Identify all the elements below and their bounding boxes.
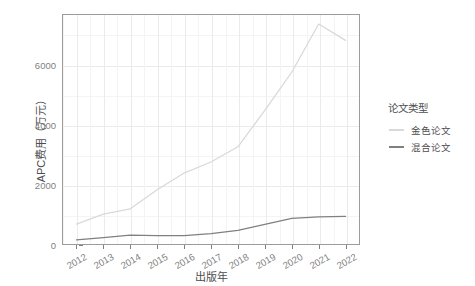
legend-title: 论文类型 [388,100,473,115]
y-tick-label: 6000 [22,59,56,70]
x-tick-mark [292,245,293,249]
series-line-2 [76,216,345,240]
series-line-1 [76,24,345,224]
legend-item-label: 金色论文 [411,123,451,137]
series-layer [63,15,359,244]
x-tick-mark [346,245,347,249]
x-tick-mark [76,245,77,249]
legend-line-key-icon [388,123,405,137]
x-tick-mark [184,245,185,249]
x-tick-mark [103,245,104,249]
x-tick-mark [265,245,266,249]
x-tick-mark [130,245,131,249]
y-tick-mark [79,245,83,246]
legend-line-key-icon [388,140,405,154]
legend-item-1[interactable]: 金色论文 [388,122,473,138]
y-tick-label: 0 [22,240,56,251]
x-tick-mark [238,245,239,249]
legend-items: 金色论文混合论文 [388,122,473,155]
legend-item-label: 混合论文 [411,140,451,154]
legend-item-2[interactable]: 混合论文 [388,139,473,155]
y-tick-label: 4000 [22,119,56,130]
line-chart: APC费用（万元） 0200040006000 2012201320142015… [0,0,475,286]
y-tick-label: 2000 [22,179,56,190]
x-tick-mark [157,245,158,249]
x-tick-mark [319,245,320,249]
plot-panel [62,14,360,245]
x-axis-title: 出版年 [62,268,360,284]
legend: 论文类型 金色论文混合论文 [388,100,473,156]
y-axis-ticks: 0200040006000 [22,0,56,286]
x-tick-mark [211,245,212,249]
